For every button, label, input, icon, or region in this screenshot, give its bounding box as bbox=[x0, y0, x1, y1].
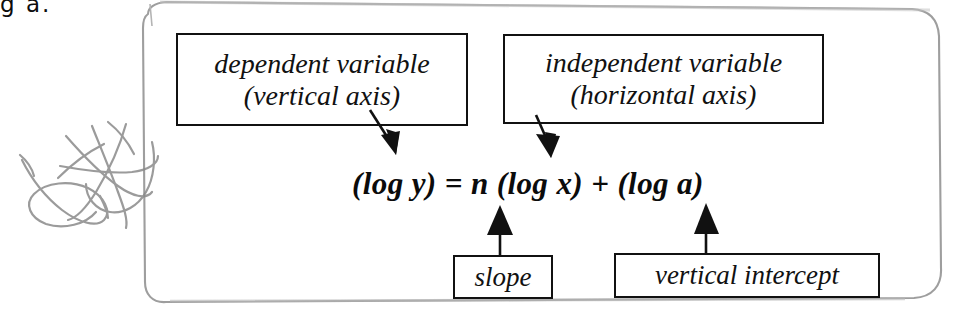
arrow-dependent-to-logy bbox=[370, 110, 400, 155]
arrow-intercept-to-loga bbox=[694, 203, 719, 253]
arrow-independent-to-logx bbox=[536, 115, 560, 158]
annotation-arrows bbox=[0, 0, 956, 313]
arrow-slope-to-n bbox=[487, 205, 513, 255]
scanned-figure-page: g a. dependent variable (vertical axis) … bbox=[0, 0, 956, 313]
